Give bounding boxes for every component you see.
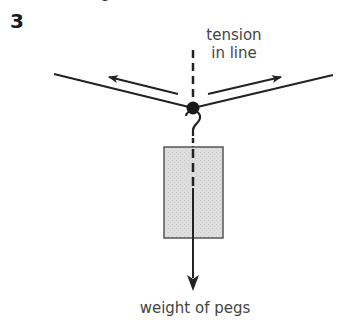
tension-arrow-left bbox=[109, 77, 178, 94]
weight-label: weight of pegs bbox=[124, 299, 266, 317]
tension-arrow-right bbox=[208, 77, 281, 94]
force-diagram bbox=[0, 0, 345, 323]
knot bbox=[187, 102, 200, 115]
hook-icon bbox=[186, 111, 200, 136]
line-left-segment bbox=[54, 74, 193, 108]
